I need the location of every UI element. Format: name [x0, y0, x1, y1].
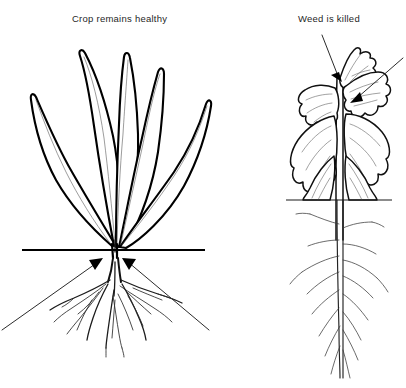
- arrow-head-icon: [89, 258, 103, 270]
- crop-fibrous-roots: [50, 258, 182, 357]
- herbicide-selectivity-figure: Crop remains healthy Weed is killed: [0, 0, 406, 388]
- arrow-head-icon: [122, 258, 136, 270]
- crop-annotation-arrow-right: [122, 258, 209, 330]
- weed-annotation-arrow-left: [322, 35, 342, 82]
- crop-annotation-arrow-left: [2, 258, 103, 330]
- crop-plant-group: [2, 50, 211, 357]
- weed-taproot: [290, 200, 388, 378]
- weed-plant-group: [286, 35, 403, 378]
- figure-artwork: [0, 0, 406, 388]
